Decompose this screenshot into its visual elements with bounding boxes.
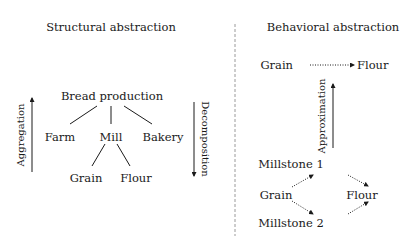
node-bread-production: Bread production xyxy=(61,89,164,103)
node-farm: Farm xyxy=(45,130,76,144)
bottom-flour: Flour xyxy=(346,188,378,202)
node-grain: Grain xyxy=(70,171,103,185)
decomposition-label: Decomposition xyxy=(200,101,211,177)
node-flour: Flour xyxy=(120,171,152,185)
node-mill: Mill xyxy=(100,130,123,144)
structural-title: Structural abstraction xyxy=(46,20,176,34)
approximation-label: Approximation xyxy=(316,78,327,154)
top-grain: Grain xyxy=(260,58,293,72)
structural-panel: Structural abstraction Bread production … xyxy=(15,20,211,185)
behavioral-title: Behavioral abstraction xyxy=(267,20,400,34)
millstone-2: Millstone 2 xyxy=(258,216,323,230)
bottom-grain: Grain xyxy=(260,188,293,202)
abstraction-diagram: Structural abstraction Bread production … xyxy=(0,0,418,248)
top-flour: Flour xyxy=(357,58,389,72)
millstone-1: Millstone 1 xyxy=(258,157,323,171)
aggregation-label: Aggregation xyxy=(15,103,26,167)
behavioral-panel: Behavioral abstraction Grain Flour Appro… xyxy=(258,20,400,230)
node-bakery: Bakery xyxy=(142,130,184,144)
